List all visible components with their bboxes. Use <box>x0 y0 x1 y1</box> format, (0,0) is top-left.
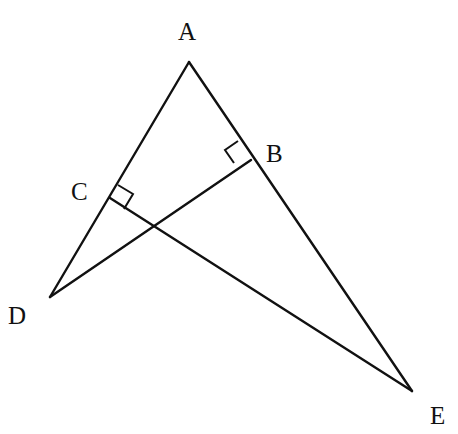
segment-CE <box>110 198 412 391</box>
label-A: A <box>178 18 196 45</box>
label-B: B <box>266 140 283 167</box>
label-E: E <box>430 402 445 429</box>
geometry-diagram: A B C D E <box>0 0 458 434</box>
label-D: D <box>8 302 26 329</box>
right-angle-mark-B <box>225 141 238 163</box>
label-C: C <box>71 178 88 205</box>
segment-AE <box>189 62 412 391</box>
